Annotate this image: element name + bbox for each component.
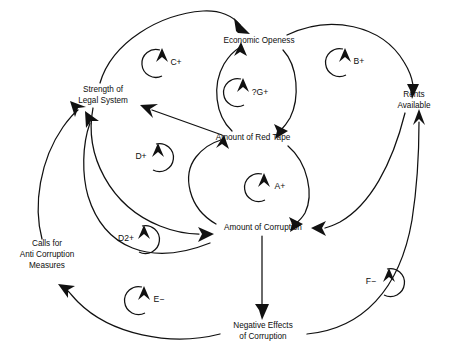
arrowhead bbox=[234, 18, 250, 34]
loop-label-e: E− bbox=[154, 294, 165, 304]
variable-label-calls-line1: Calls for bbox=[32, 239, 62, 248]
loop-marker-f: F− bbox=[366, 268, 405, 297]
loop-marker-a: A+ bbox=[245, 173, 286, 202]
diagram-canvas: C+ ?G+ B+ D+ bbox=[0, 0, 456, 353]
link-negative-to-rents bbox=[307, 109, 425, 334]
link-calls-to-legal bbox=[38, 101, 86, 239]
loop-label-g: ?G+ bbox=[252, 87, 268, 97]
loop-marker-d: D+ bbox=[135, 143, 173, 172]
variable-label-strength-of-legal-system-line2: Legal System bbox=[78, 96, 128, 105]
link-legal-to-corruption bbox=[91, 108, 214, 242]
loop-marker-g: ?G+ bbox=[224, 78, 269, 107]
link-rents-to-corruption bbox=[311, 113, 405, 236]
variable-label-layer: Economic Openess Strength of Legal Syste… bbox=[20, 36, 431, 341]
variable-strength-of-legal-system: Strength of Legal System bbox=[78, 85, 128, 105]
loop-label-b: B+ bbox=[354, 56, 365, 66]
loop-label-a: A+ bbox=[275, 181, 286, 191]
variable-negative-effects-of-corruption: Negative Effects of Corruption bbox=[233, 321, 292, 341]
variable-label-calls-line2: Anti Corruption bbox=[20, 250, 75, 259]
link-corruption-to-redtape bbox=[189, 135, 229, 224]
loop-marker-d2: D2+ bbox=[118, 225, 159, 254]
variable-label-calls-line3: Measures bbox=[29, 261, 65, 270]
link-negative-to-calls bbox=[58, 284, 220, 339]
link-redtape-to-legal bbox=[140, 104, 222, 135]
loop-marker-c: C+ bbox=[142, 48, 182, 77]
loop-marker-b: B+ bbox=[326, 48, 365, 77]
variable-label-economic-openess: Economic Openess bbox=[224, 36, 295, 45]
variable-amount-of-corruption: Amount of Corruption bbox=[224, 223, 302, 232]
variable-label-rents-available-line1: Rents bbox=[403, 90, 424, 99]
link-legal-to-openess bbox=[100, 11, 250, 83]
link-redtape-to-corruption bbox=[288, 146, 309, 232]
arrowhead bbox=[198, 227, 214, 242]
link-layer bbox=[38, 11, 425, 339]
variable-economic-openess: Economic Openess bbox=[224, 36, 295, 45]
variable-label-rents-available-line2: Available bbox=[397, 101, 431, 110]
loop-label-d: D+ bbox=[135, 151, 146, 161]
loop-label-f: F− bbox=[366, 276, 376, 286]
causal-loop-diagram: C+ ?G+ B+ D+ bbox=[0, 0, 456, 353]
link-openess-to-redtape bbox=[274, 50, 296, 139]
variable-label-amount-of-red-tape: Amount of Red Tape bbox=[216, 133, 291, 142]
variable-label-amount-of-corruption: Amount of Corruption bbox=[224, 223, 302, 232]
variable-label-negative-effects-line2: of Corruption bbox=[239, 332, 287, 341]
variable-calls-for-anti-corruption-measures: Calls for Anti Corruption Measures bbox=[20, 239, 75, 270]
variable-label-negative-effects-line1: Negative Effects bbox=[233, 321, 292, 330]
loop-marker-layer: C+ ?G+ B+ D+ bbox=[118, 48, 404, 315]
variable-rents-available: Rents Available bbox=[397, 90, 431, 110]
arrowhead bbox=[311, 221, 326, 236]
variable-label-strength-of-legal-system-line1: Strength of bbox=[83, 85, 124, 94]
loop-label-c: C+ bbox=[170, 57, 181, 67]
variable-amount-of-red-tape: Amount of Red Tape bbox=[216, 133, 291, 142]
arrowhead bbox=[255, 304, 269, 320]
loop-marker-e: E− bbox=[125, 286, 165, 315]
link-corruption-to-negative bbox=[255, 236, 269, 320]
loop-label-d2: D2+ bbox=[118, 233, 134, 243]
